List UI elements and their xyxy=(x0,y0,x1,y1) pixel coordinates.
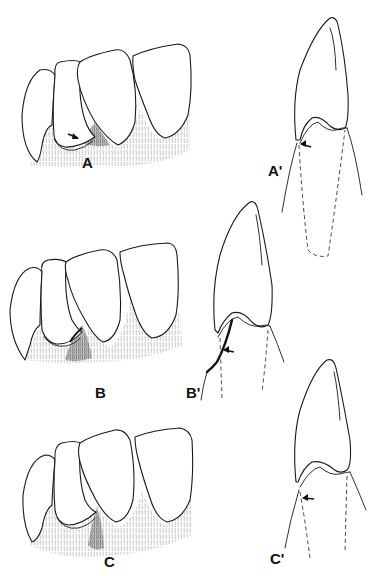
panel-a-prime-tooth xyxy=(282,18,362,257)
panel-c-prime-tooth xyxy=(285,360,366,558)
panel-label-a-prime: A' xyxy=(268,162,282,179)
panel-label-c-prime: C' xyxy=(270,550,284,567)
root-outline-labial xyxy=(300,492,310,558)
crown-outline xyxy=(295,18,349,140)
dental-illustration xyxy=(0,0,376,576)
panel-c-teeth xyxy=(23,428,193,557)
gingiva-lingual xyxy=(347,128,362,195)
panel-label-c: C xyxy=(104,553,115,570)
panel-label-a: A xyxy=(82,154,93,171)
panel-label-b-prime: B' xyxy=(186,384,200,401)
crown-outline xyxy=(214,202,272,333)
gingiva-labial xyxy=(282,143,297,212)
gingiva-labial xyxy=(201,372,207,400)
arrow-head xyxy=(302,494,308,501)
root-outline-lingual xyxy=(262,330,268,392)
panel-a-teeth xyxy=(22,44,191,167)
gingiva-lingual xyxy=(270,326,284,362)
crown-outline xyxy=(295,360,351,482)
panel-b-prime-tooth xyxy=(201,202,284,400)
gingiva-lingual xyxy=(350,472,366,510)
root-outline xyxy=(299,130,345,256)
root-outline-labial xyxy=(220,338,222,400)
panel-label-b: B xyxy=(95,384,106,401)
panel-b-teeth xyxy=(10,243,182,363)
root-outline-lingual xyxy=(345,476,347,553)
gingiva-labial xyxy=(285,490,299,548)
